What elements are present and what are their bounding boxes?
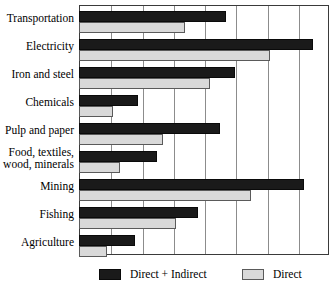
bar-direct-indirect	[79, 235, 135, 246]
chart-legend: Direct + Indirect Direct	[0, 266, 336, 288]
y-axis-label-fishing: Fishing	[39, 208, 74, 220]
y-axis-label-electricity: Electricity	[26, 40, 74, 52]
label-line: Pulp and paper	[5, 124, 74, 136]
y-axis-label-transportation: Transportation	[7, 12, 74, 24]
y-axis-label-pulp-and-paper: Pulp and paper	[5, 124, 74, 136]
bar-group-iron-and-steel	[79, 67, 329, 89]
legend-item-direct: Direct	[242, 266, 302, 282]
legend-item-direct-indirect: Direct + Indirect	[99, 266, 207, 282]
bar-direct	[79, 78, 210, 89]
legend-swatch-light-icon	[242, 269, 264, 280]
bars-container	[79, 5, 329, 255]
y-axis-label-mining: Mining	[40, 180, 74, 192]
y-axis-label-iron-and-steel: Iron and steel	[11, 68, 74, 80]
y-axis-label-chemicals: Chemicals	[25, 96, 74, 108]
label-line: Transportation	[7, 12, 74, 24]
label-line: Chemicals	[25, 96, 74, 108]
bar-direct-indirect	[79, 179, 304, 190]
y-axis-label-food-textiles-wood-minerals: Food, textiles, wood, minerals	[3, 146, 74, 170]
label-line: Mining	[40, 180, 74, 192]
bar-chart: Transportation Electricity Iron and stee…	[0, 0, 336, 292]
label-line: Electricity	[26, 40, 74, 52]
label-line: Food, textiles,	[3, 146, 74, 158]
bar-group-chemicals	[79, 95, 329, 117]
bar-direct-indirect	[79, 39, 313, 50]
bar-direct	[79, 106, 113, 117]
y-axis-labels: Transportation Electricity Iron and stee…	[0, 5, 77, 255]
top-crop-artifact	[6, 0, 156, 2]
bar-group-fishing	[79, 207, 329, 229]
bar-direct-indirect	[79, 67, 235, 78]
bar-group-electricity	[79, 39, 329, 61]
y-axis-label-agriculture: Agriculture	[21, 236, 74, 248]
legend-swatch-dark-icon	[99, 269, 121, 280]
bar-direct	[79, 162, 120, 173]
label-line: Fishing	[39, 208, 74, 220]
bar-direct-indirect	[79, 207, 198, 218]
bar-direct-indirect	[79, 123, 220, 134]
bar-group-pulp-and-paper	[79, 123, 329, 145]
bar-group-mining	[79, 179, 329, 201]
label-line: Iron and steel	[11, 68, 74, 80]
bar-direct	[79, 190, 251, 201]
label-line: wood, minerals	[3, 158, 74, 170]
bar-group-food-textiles-wood-minerals	[79, 151, 329, 173]
legend-label: Direct	[273, 268, 302, 280]
bar-direct-indirect	[79, 95, 138, 106]
legend-label: Direct + Indirect	[130, 268, 207, 280]
bar-direct	[79, 218, 176, 229]
bar-direct	[79, 246, 107, 257]
bar-direct	[79, 50, 270, 61]
bar-group-transportation	[79, 11, 329, 33]
bar-direct-indirect	[79, 151, 157, 162]
bar-group-agriculture	[79, 235, 329, 257]
bar-direct-indirect	[79, 11, 226, 22]
bar-direct	[79, 134, 163, 145]
bar-direct	[79, 22, 185, 33]
label-line: Agriculture	[21, 236, 74, 248]
